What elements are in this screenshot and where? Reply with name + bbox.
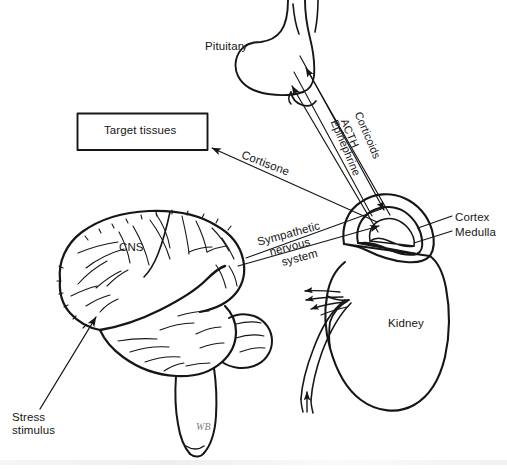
brain-outline	[57, 210, 272, 457]
label-cns: CNS	[119, 241, 144, 254]
kidney-outline	[301, 256, 449, 413]
label-cortex: Cortex	[455, 211, 489, 224]
label-stress-stimulus: Stress stimulus	[12, 411, 55, 437]
diagram-artwork	[0, 0, 507, 469]
adrenal-gland-outline	[343, 194, 433, 262]
label-stress-line-2: stimulus	[12, 424, 55, 437]
scan-artifact-line	[0, 460, 507, 465]
pituitary-gland-outline	[236, 0, 318, 106]
cortex-leader-line	[418, 216, 452, 228]
label-kidney: Kidney	[388, 317, 424, 330]
label-target-tissues: Target tissues	[104, 124, 176, 137]
label-pituitary: Pituitary	[205, 40, 247, 53]
label-stress-line-1: Stress	[12, 411, 55, 424]
stress-stimulus-arrow	[40, 317, 96, 409]
stress-response-diagram: Pituitary Target tissues Cortisone Corti…	[0, 0, 507, 469]
epinephrine-arrow	[292, 86, 378, 232]
label-medulla: Medulla	[455, 226, 496, 239]
artist-signature: WB	[196, 421, 211, 432]
